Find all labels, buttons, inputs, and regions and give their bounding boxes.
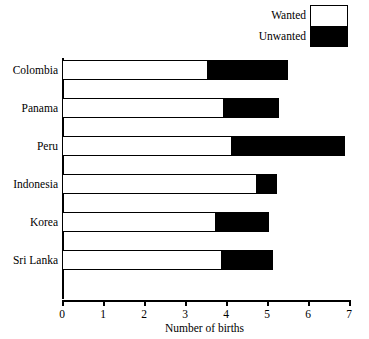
bar-panama xyxy=(62,98,279,118)
x-tick-label-7: 7 xyxy=(339,307,359,321)
bar-segment-unwanted xyxy=(215,213,269,231)
x-tick-label-2: 2 xyxy=(134,307,154,321)
bar-segment-unwanted xyxy=(256,175,278,193)
chart-legend: Wanted Unwanted xyxy=(232,4,362,50)
x-tick-label-6: 6 xyxy=(298,307,318,321)
legend-swatch-box xyxy=(310,5,348,47)
x-tick-5 xyxy=(267,300,269,306)
x-tick-label-4: 4 xyxy=(216,307,236,321)
bar-sri-lanka xyxy=(62,250,273,270)
legend-label-wanted: Wanted xyxy=(271,5,306,26)
x-tick-1 xyxy=(103,300,105,306)
x-tick-label-5: 5 xyxy=(257,307,277,321)
x-tick-7 xyxy=(349,300,351,306)
legend-label-unwanted: Unwanted xyxy=(259,26,306,47)
bar-peru xyxy=(62,136,345,156)
legend-swatch-wanted xyxy=(311,6,347,26)
x-tick-label-3: 3 xyxy=(175,307,195,321)
x-tick-3 xyxy=(185,300,187,306)
x-axis-title: Number of births xyxy=(0,322,369,334)
category-label-indonesia: Indonesia xyxy=(0,177,58,191)
x-tick-2 xyxy=(144,300,146,306)
bar-segment-unwanted xyxy=(223,99,279,117)
category-label-panama: Panama xyxy=(0,101,58,115)
x-tick-0 xyxy=(62,300,64,306)
category-axis-labels: ColombiaPanamaPeruIndonesiaKoreaSri Lank… xyxy=(0,58,58,299)
category-label-colombia: Colombia xyxy=(0,63,58,77)
x-axis-line xyxy=(62,300,349,302)
category-label-peru: Peru xyxy=(0,139,58,153)
x-tick-label-0: 0 xyxy=(52,307,72,321)
bar-colombia xyxy=(62,60,288,80)
bar-korea xyxy=(62,212,269,232)
legend-swatch-unwanted xyxy=(311,26,347,46)
x-tick-label-1: 1 xyxy=(93,307,113,321)
stacked-bar-chart: Wanted Unwanted ColombiaPanamaPeruIndone… xyxy=(0,0,369,339)
bar-segment-unwanted xyxy=(221,251,273,269)
x-tick-6 xyxy=(308,300,310,306)
category-label-sri-lanka: Sri Lanka xyxy=(0,253,58,267)
plot-area xyxy=(62,58,349,299)
bar-indonesia xyxy=(62,174,277,194)
bar-segment-unwanted xyxy=(231,137,345,155)
x-tick-4 xyxy=(226,300,228,306)
category-label-korea: Korea xyxy=(0,215,58,229)
bar-segment-unwanted xyxy=(207,61,288,79)
